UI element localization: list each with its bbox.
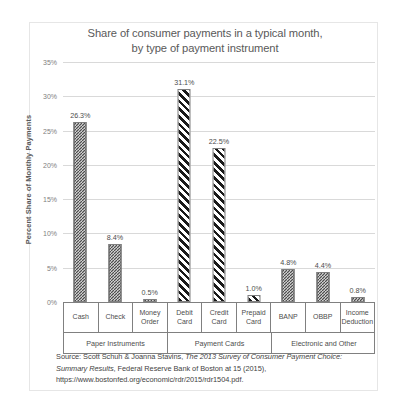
bar-slot: 22.5% [202,62,237,302]
x-axis-group-payment-cards: Payment Cards [168,333,272,353]
x-axis-category-credit-card: CreditCard [202,303,237,332]
bar[interactable] [316,272,329,302]
category-row: CashCheckMoneyOrderDebitCardCreditCardPr… [63,302,375,332]
y-axis-tick-label: 5% [23,264,57,271]
source-prefix: Source: Scott Schuh & Joanna Stavins, [56,352,185,361]
x-axis-group-paper-instruments: Paper Instruments [64,333,168,353]
bar-value-label: 8.4% [107,233,123,242]
bar[interactable] [74,122,87,302]
bar[interactable] [282,269,295,302]
bar-slot: 8.4% [98,62,133,302]
bar-slot: 0.8% [340,62,375,302]
bar-value-label: 26.3% [70,111,90,120]
x-axis-category-obbp: OBBP [306,303,341,332]
bar-slot: 4.4% [306,62,341,302]
bar-slot: 0.5% [132,62,167,302]
page-title: Share of consumer payments in a typical … [40,26,370,55]
bar-value-label: 4.4% [315,261,331,270]
chart-title-line-1: Share of consumer payments in a typical … [40,26,370,41]
bar-series: 26.3%8.4%0.5%31.1%22.5%1.0%4.8%4.4%0.8% [63,62,375,302]
x-axis-category-debit-card: DebitCard [168,303,203,332]
bar-slot: 1.0% [236,62,271,302]
bar[interactable] [247,295,260,302]
y-axis-tick-label: 35% [23,59,57,66]
bar-slot: 31.1% [167,62,202,302]
bar-value-label: 0.5% [141,288,157,297]
bar[interactable] [108,244,121,302]
y-axis-tick-label: 0% [23,299,57,306]
y-axis-tick-label: 30% [23,93,57,100]
y-axis-tick-label: 25% [23,127,57,134]
bar[interactable] [178,89,191,302]
bar-value-label: 0.8% [349,286,365,295]
chart-page: Share of consumer payments in a typical … [0,0,405,412]
bar-value-label: 22.5% [209,137,229,146]
bar[interactable] [212,148,225,302]
bar-slot: 26.3% [63,62,98,302]
x-axis-category-prepaid-card: PrepaidCard [237,303,272,332]
bar-value-label: 31.1% [174,78,194,87]
bar-value-label: 4.8% [280,258,296,267]
y-axis-tick-label: 10% [23,230,57,237]
x-axis-category-check: Check [99,303,134,332]
bar-value-label: 1.0% [245,284,261,293]
x-axis-group-electronic-and-other: Electronic and Other [272,333,376,353]
source-citation: Source: Scott Schuh & Joanna Stavins, Th… [56,351,366,386]
x-axis-category-cash: Cash [64,303,99,332]
chart-title-line-2: by type of payment instrument [40,41,370,56]
y-axis-tick-label: 20% [23,161,57,168]
bar-slot: 4.8% [271,62,306,302]
x-axis: CashCheckMoneyOrderDebitCardCreditCardPr… [63,302,375,354]
y-axis-tick-label: 15% [23,196,57,203]
x-axis-category-banp: BANP [271,303,306,332]
y-axis-tick-labels: 0%5%10%15%20%25%30%35% [23,62,57,302]
x-axis-category-money-order: MoneyOrder [133,303,168,332]
x-axis-category-income-deduction: IncomeDeduction [341,303,375,332]
